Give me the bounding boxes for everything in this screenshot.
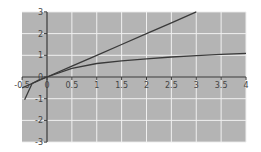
line-chart: -0.500.511.522.533.54 -3-2-10123 [0, 0, 261, 152]
y-tick-label: -1 [35, 95, 43, 104]
y-tick-label: -3 [35, 138, 43, 147]
x-tick-label: -0.5 [14, 81, 30, 90]
x-tick-label: 2 [144, 81, 149, 90]
x-tick-label: 1 [94, 81, 99, 90]
y-tick-label: -2 [35, 116, 43, 125]
x-tick-label: 2.5 [165, 81, 178, 90]
x-tick-label: 1.5 [115, 81, 128, 90]
x-tick-label: 0.5 [66, 81, 79, 90]
y-tick-label: 1 [38, 51, 43, 60]
y-tick-label: 3 [38, 8, 43, 17]
y-tick-label: 0 [38, 73, 43, 82]
x-tick-label: 3 [194, 81, 199, 90]
x-tick-label: 4 [243, 81, 248, 90]
x-tick-label: 0 [44, 81, 49, 90]
y-tick-label: 2 [38, 30, 43, 39]
x-tick-label: 3.5 [215, 81, 228, 90]
